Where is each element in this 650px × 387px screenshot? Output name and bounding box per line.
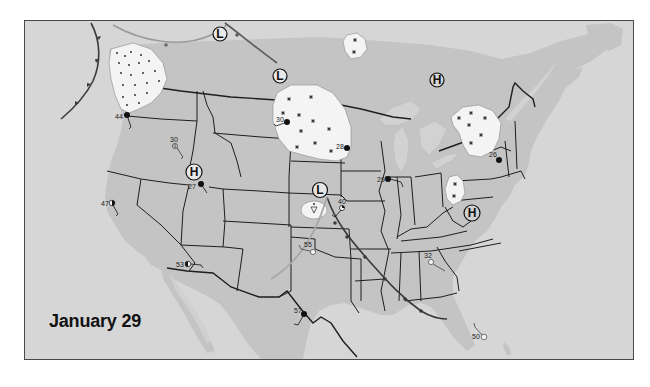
high-pressure-virginia: H	[464, 205, 480, 221]
svg-text:26: 26	[489, 151, 497, 158]
map-date-title: January 29	[49, 311, 141, 332]
low-pressure-kansas: L	[313, 183, 328, 198]
high-pressure-ontario: H	[430, 73, 444, 87]
svg-text:29: 29	[377, 176, 385, 183]
svg-text:55: 55	[304, 241, 312, 248]
svg-text:53: 53	[176, 261, 184, 268]
svg-text:H: H	[468, 206, 477, 220]
low-pressure-manitoba: L	[273, 69, 287, 83]
svg-text:30: 30	[276, 116, 284, 123]
svg-text:50: 50	[472, 333, 480, 340]
svg-text:44: 44	[115, 113, 123, 120]
svg-text:27: 27	[188, 183, 196, 190]
svg-text:H: H	[190, 165, 199, 179]
svg-text:57: 57	[294, 307, 302, 314]
svg-text:40: 40	[338, 198, 346, 205]
svg-text:H: H	[433, 73, 442, 87]
map-canvas: L L H H L H 44	[25, 21, 633, 359]
svg-text:47: 47	[101, 200, 109, 207]
low-pressure-canada-west: L	[213, 27, 227, 41]
svg-text:L: L	[216, 27, 223, 41]
svg-text:28: 28	[336, 143, 344, 150]
svg-text:L: L	[276, 69, 283, 83]
weather-map: L L H H L H 44	[24, 20, 634, 360]
svg-text:L: L	[316, 183, 323, 197]
high-pressure-idaho: H	[186, 164, 202, 180]
svg-text:30: 30	[170, 136, 178, 143]
svg-text:32: 32	[424, 252, 432, 259]
